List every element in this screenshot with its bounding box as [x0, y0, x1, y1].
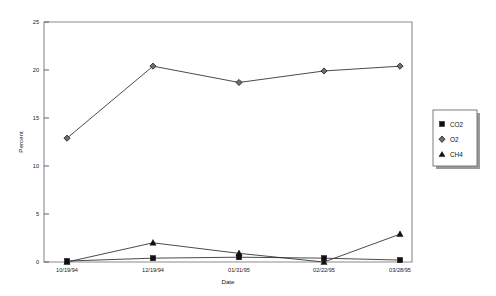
y-tick-label-0: 0	[36, 259, 39, 265]
chart-background	[0, 0, 496, 296]
y-tick-label-15: 15	[33, 115, 39, 121]
y-tick-label-20: 20	[33, 67, 39, 73]
x-tick-label-2: 01/31/95	[228, 267, 250, 273]
y-axis-title: Percent	[17, 131, 24, 153]
legend-label-o2: O2	[450, 136, 459, 143]
x-tick-label-1: 12/19/94	[142, 267, 164, 273]
x-tick-label-4: 03/28/95	[389, 267, 411, 273]
x-tick-label-3: 02/22/95	[313, 267, 335, 273]
legend-label-co2: CO2	[450, 121, 464, 128]
chart-container: 0 5 10 15 20 25 Percent 10/19/94 12/19/9…	[0, 0, 496, 296]
legend: CO2 O2 CH4	[433, 110, 480, 169]
legend-label-ch4: CH4	[450, 151, 463, 158]
marker-square-icon	[150, 256, 155, 261]
legend-marker-square-icon	[440, 122, 445, 127]
y-tick-label-5: 5	[36, 211, 39, 217]
y-tick-label-10: 10	[33, 163, 39, 169]
x-tick-label-0: 10/19/94	[56, 267, 78, 273]
x-axis-title: Date	[221, 278, 235, 285]
marker-square-icon	[397, 257, 402, 262]
y-tick-label-25: 25	[33, 19, 39, 25]
line-chart: 0 5 10 15 20 25 Percent 10/19/94 12/19/9…	[0, 0, 496, 296]
legend-entry-co2[interactable]: CO2	[440, 121, 464, 128]
